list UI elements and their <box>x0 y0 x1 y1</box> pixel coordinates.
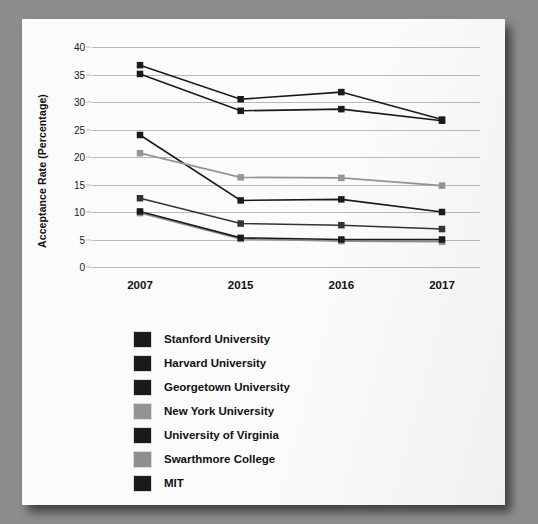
y-tick-mark <box>86 47 91 48</box>
screenshot-root: Acceptance Rate (Percentage) 05101520253… <box>0 0 538 524</box>
legend-item: MIT <box>134 471 434 495</box>
legend-color-swatch <box>134 428 151 443</box>
y-tick-label: 40 <box>74 42 85 53</box>
y-tick-label: 10 <box>74 207 85 218</box>
legend-color-swatch <box>134 356 151 371</box>
y-tick-mark <box>86 157 91 158</box>
y-tick-label: 20 <box>74 152 85 163</box>
data-point-marker <box>137 195 144 202</box>
data-point-marker <box>237 108 244 115</box>
series-stanford-university <box>137 62 446 123</box>
legend-item: Stanford University <box>134 327 434 351</box>
legend-item-label: University of Virginia <box>164 429 279 441</box>
data-point-marker <box>338 236 345 243</box>
x-tick-label: 2016 <box>329 279 355 291</box>
x-tick-label: 2007 <box>127 279 153 291</box>
series-line <box>140 135 442 212</box>
y-tick-label: 30 <box>74 97 85 108</box>
legend-item-label: Stanford University <box>164 333 270 345</box>
legend-item-label: Georgetown University <box>164 381 290 393</box>
legend-item-label: Harvard University <box>164 357 266 369</box>
legend-color-swatch <box>134 452 151 467</box>
y-tick-label: 25 <box>74 124 85 135</box>
y-tick-label: 15 <box>74 179 85 190</box>
data-point-marker <box>137 208 144 215</box>
series-georgetown-university <box>137 132 446 216</box>
data-point-marker <box>237 197 244 204</box>
data-point-marker <box>237 220 244 227</box>
data-point-marker <box>439 182 446 189</box>
data-point-marker <box>137 132 144 139</box>
legend-item-label: Swarthmore College <box>164 453 275 465</box>
legend-color-swatch <box>134 332 151 347</box>
y-tick-mark <box>86 74 91 75</box>
data-point-marker <box>338 222 345 229</box>
data-point-marker <box>439 117 446 124</box>
y-tick-mark <box>86 102 91 103</box>
data-point-marker <box>237 174 244 181</box>
series-line <box>140 153 442 185</box>
legend-color-swatch <box>134 476 151 491</box>
y-tick-mark <box>86 212 91 213</box>
series-harvard-university <box>137 71 446 124</box>
chart-legend: Stanford UniversityHarvard UniversityGeo… <box>134 327 434 495</box>
data-point-marker <box>137 150 144 157</box>
line-chart-figure: Acceptance Rate (Percentage) 05101520253… <box>22 19 505 505</box>
x-tick-label: 2017 <box>429 279 455 291</box>
data-point-marker <box>439 236 446 243</box>
legend-item-label: MIT <box>164 477 184 489</box>
data-point-marker <box>237 96 244 103</box>
data-point-marker <box>338 175 345 182</box>
y-axis-title-label: Acceptance Rate (Percentage) <box>36 71 48 271</box>
legend-item: Harvard University <box>134 351 434 375</box>
legend-item: Georgetown University <box>134 375 434 399</box>
data-point-marker <box>237 235 244 242</box>
y-tick-label: 5 <box>79 234 85 245</box>
legend-item: New York University <box>134 399 434 423</box>
chart-card: Acceptance Rate (Percentage) 05101520253… <box>22 19 505 505</box>
data-point-marker <box>338 106 345 113</box>
legend-item-label: New York University <box>164 405 274 417</box>
legend-item: University of Virginia <box>134 423 434 447</box>
data-point-marker <box>439 209 446 216</box>
data-point-marker <box>137 71 144 78</box>
data-point-marker <box>338 196 345 203</box>
y-tick-label: 0 <box>79 262 85 273</box>
y-axis-title: Acceptance Rate (Percentage) <box>36 0 54 71</box>
gridline <box>92 267 480 268</box>
series-mit <box>137 208 446 243</box>
data-point-marker <box>338 89 345 96</box>
plot-area: 0510152025303540 2007201520162017 <box>92 47 480 267</box>
series-layer <box>92 47 480 267</box>
y-tick-mark <box>86 184 91 185</box>
series-line <box>140 65 442 119</box>
legend-item: Swarthmore College <box>134 447 434 471</box>
legend-color-swatch <box>134 380 151 395</box>
y-tick-mark <box>86 129 91 130</box>
y-tick-label: 35 <box>74 69 85 80</box>
y-tick-mark <box>86 239 91 240</box>
x-tick-label: 2015 <box>228 279 254 291</box>
data-point-marker <box>137 62 144 69</box>
series-new-york-university <box>137 150 446 189</box>
legend-color-swatch <box>134 404 151 419</box>
y-tick-mark <box>86 267 91 268</box>
data-point-marker <box>439 226 446 233</box>
